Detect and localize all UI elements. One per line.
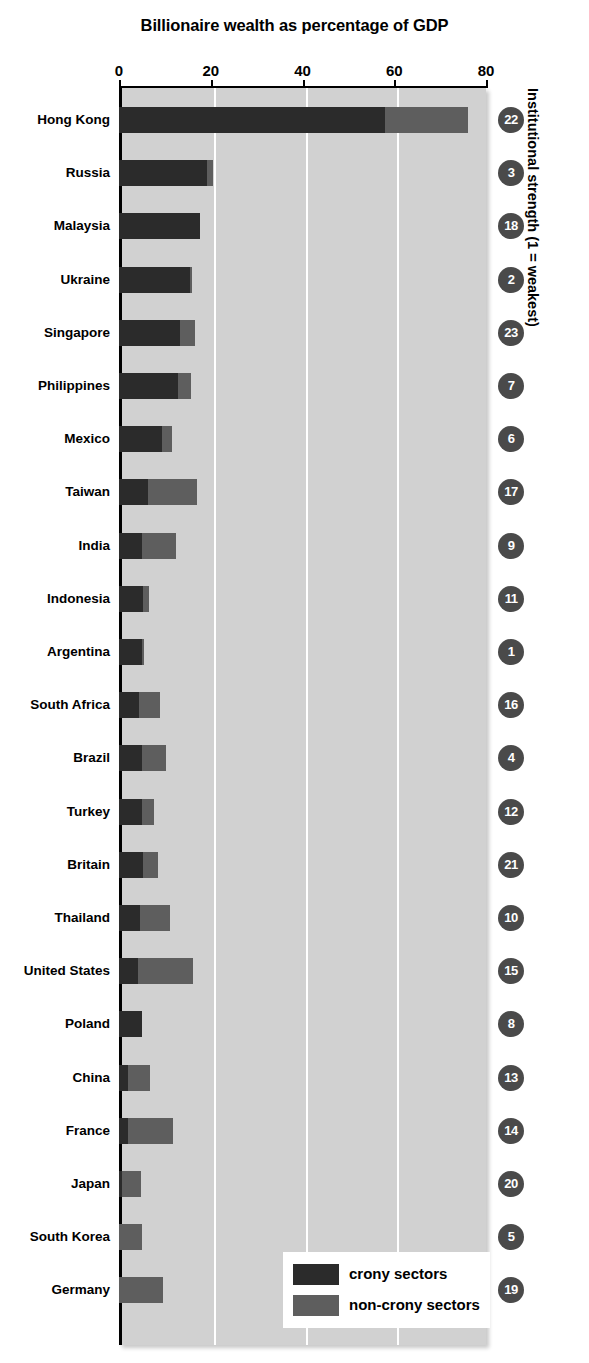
bar-thailand [119,905,170,931]
bar-india [119,533,176,559]
bar-segment-crony [119,533,142,559]
bar-china [119,1065,150,1091]
category-label-france: France [0,1118,110,1144]
bar-malaysia [119,213,200,239]
bar-segment-non-crony [139,692,160,718]
x-axis-tick-labels: 020406080 [0,62,589,82]
institutional-strength-badge: 15 [498,958,524,984]
x-axis-tick-label-0: 0 [115,62,123,79]
bar-brazil [119,745,166,771]
x-axis-tick-mark [486,80,488,88]
bar-segment-crony [119,1011,142,1037]
institutional-strength-badge: 21 [498,852,524,878]
institutional-strength-badge: 6 [498,426,524,452]
institutional-strength-badge: 16 [498,692,524,718]
bar-segment-crony [119,267,190,293]
bar-segment-crony [119,373,178,399]
bar-south-africa [119,692,160,718]
bar-segment-non-crony [138,958,193,984]
institutional-strength-badge: 5 [498,1224,524,1250]
institutional-strength-badge: 9 [498,533,524,559]
bar-segment-crony [119,107,385,133]
bar-segment-crony [119,745,142,771]
category-label-turkey: Turkey [0,799,110,825]
institutional-strength-badge: 3 [498,160,524,186]
institutional-strength-badge: 1 [498,639,524,665]
bar-turkey [119,799,154,825]
bar-segment-crony [119,905,140,931]
category-label-japan: Japan [0,1171,110,1197]
x-axis-tick-mark [303,80,305,88]
category-label-malaysia: Malaysia [0,213,110,239]
bar-britain [119,852,158,878]
institutional-strength-badge: 23 [498,320,524,346]
x-axis-tick-mark [211,80,213,88]
x-axis-tick-label-20: 20 [202,62,219,79]
category-label-mexico: Mexico [0,426,110,452]
category-label-brazil: Brazil [0,745,110,771]
bar-segment-crony [119,586,143,612]
institutional-strength-badge: 2 [498,267,524,293]
bar-segment-non-crony [142,799,154,825]
category-label-poland: Poland [0,1011,110,1037]
bar-taiwan [119,479,197,505]
bar-segment-non-crony [128,1065,150,1091]
bar-segment-non-crony [142,745,166,771]
bar-philippines [119,373,191,399]
institutional-strength-badge: 20 [498,1171,524,1197]
bar-segment-crony [119,160,207,186]
bar-ukraine [119,267,192,293]
institutional-strength-badge: 22 [498,107,524,133]
bar-segment-crony [119,799,142,825]
institutional-strength-badge: 12 [498,799,524,825]
x-axis-tick-label-60: 60 [386,62,403,79]
bar-segment-crony [119,958,138,984]
bar-segment-non-crony [128,1118,173,1144]
bar-segment-non-crony [143,586,149,612]
bar-poland [119,1011,142,1037]
bar-segment-non-crony [162,426,172,452]
bar-singapore [119,320,195,346]
bar-segment-non-crony [190,267,192,293]
bar-segment-non-crony [119,1224,142,1250]
category-label-germany: Germany [0,1277,110,1303]
bar-segment-crony [119,426,162,452]
category-label-ukraine: Ukraine [0,267,110,293]
bar-segment-crony [119,479,148,505]
bar-segment-non-crony [180,320,195,346]
bar-segment-non-crony [143,852,158,878]
x-axis-tick-label-80: 80 [478,62,495,79]
bar-segment-non-crony [140,905,170,931]
bar-united-states [119,958,193,984]
category-label-britain: Britain [0,852,110,878]
bar-segment-crony [119,1065,128,1091]
bar-indonesia [119,586,149,612]
bar-segment-non-crony [142,639,144,665]
bar-segment-crony [119,320,180,346]
bar-france [119,1118,173,1144]
x-axis-tick-mark [119,80,121,88]
bar-segment-crony [119,213,200,239]
institutional-strength-badge: 7 [498,373,524,399]
bar-segment-crony [119,639,142,665]
bar-mexico [119,426,172,452]
bar-segment-non-crony [385,107,468,133]
category-label-india: India [0,533,110,559]
category-label-singapore: Singapore [0,320,110,346]
bar-japan [119,1171,141,1197]
category-label-indonesia: Indonesia [0,586,110,612]
bar-russia [119,160,213,186]
category-label-china: China [0,1065,110,1091]
bar-segment-non-crony [119,1277,163,1303]
category-label-taiwan: Taiwan [0,479,110,505]
category-label-south-africa: South Africa [0,692,110,718]
institutional-strength-badge: 14 [498,1118,524,1144]
category-label-philippines: Philippines [0,373,110,399]
bar-argentina [119,639,144,665]
category-label-united-states: United States [0,958,110,984]
bar-hong-kong [119,107,468,133]
category-label-russia: Russia [0,160,110,186]
bar-segment-non-crony [207,160,213,186]
chart-title: Billionaire wealth as percentage of GDP [0,16,589,35]
category-label-hong-kong: Hong Kong [0,107,110,133]
